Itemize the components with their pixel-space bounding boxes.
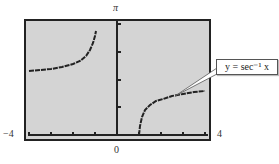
x-min-label: −4 (3, 128, 14, 139)
x-max-label: 4 (217, 128, 222, 139)
plot-canvas (0, 0, 279, 164)
function-callout: y = sec⁻¹ x (216, 59, 278, 75)
y-max-label: π (113, 2, 118, 13)
origin-label: 0 (114, 144, 119, 155)
